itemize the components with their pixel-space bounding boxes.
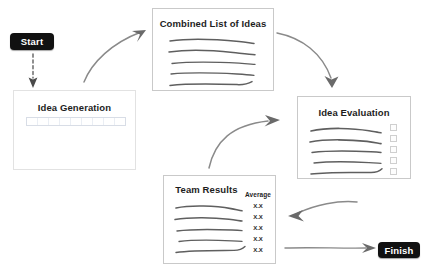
start-terminator[interactable]: Start: [10, 33, 54, 50]
start-label: Start: [21, 36, 44, 47]
average-value: X.X: [242, 247, 274, 254]
evaluation-checkbox[interactable]: [390, 135, 397, 142]
connector-team-results-to-idea-evaluation: [209, 115, 280, 168]
team-results-scribble-lines: [174, 203, 248, 255]
table-cell: [49, 118, 60, 125]
finish-terminator[interactable]: Finish: [378, 242, 420, 258]
table-cell: [60, 118, 71, 125]
connector-idea-generation-to-combined-list: [84, 30, 146, 82]
process-box-idea-evaluation[interactable]: Idea Evaluation: [297, 96, 411, 179]
table-cell: [115, 118, 125, 125]
combined-list-scribble-lines: [167, 36, 263, 90]
table-cell: [71, 118, 82, 125]
idea-generation-table-strip: [26, 117, 126, 126]
process-box-combined-list[interactable]: Combined List of Ideas: [152, 8, 274, 91]
average-value: X.X: [242, 236, 274, 243]
connector-team-results-to-finish: [285, 243, 376, 253]
idea-evaluation-checkbox-column: [390, 124, 400, 180]
idea-evaluation-scribble-lines: [309, 125, 387, 177]
evaluation-checkbox[interactable]: [390, 168, 397, 175]
evaluation-checkbox[interactable]: [390, 124, 397, 131]
average-value: X.X: [242, 225, 274, 232]
process-box-idea-generation[interactable]: Idea Generation: [13, 90, 136, 170]
diagram-canvas: Start Idea Generation Combined List of I…: [0, 0, 423, 274]
average-column-header: Average: [242, 191, 274, 199]
table-cell: [104, 118, 115, 125]
table-cell: [38, 118, 49, 125]
average-value: X.X: [242, 214, 274, 221]
evaluation-checkbox[interactable]: [390, 157, 397, 164]
box-title-idea-generation: Idea Generation: [14, 102, 135, 113]
connector-idea-evaluation-to-team-results: [288, 202, 357, 222]
average-value: X.X: [242, 203, 274, 210]
table-cell: [82, 118, 93, 125]
box-title-combined-list: Combined List of Ideas: [153, 18, 273, 29]
box-title-idea-evaluation: Idea Evaluation: [298, 107, 410, 118]
team-results-average-column: Average X.X X.X X.X X.X X.X: [242, 191, 274, 259]
connector-combined-list-to-idea-evaluation: [277, 33, 339, 88]
table-cell: [27, 118, 38, 125]
finish-label: Finish: [384, 245, 413, 256]
process-box-team-results[interactable]: Team Results Average X.X X.X X.X X.X X.X: [163, 175, 276, 264]
evaluation-checkbox[interactable]: [390, 146, 397, 153]
connector-start-to-idea-generation: [29, 54, 38, 88]
table-cell: [93, 118, 104, 125]
